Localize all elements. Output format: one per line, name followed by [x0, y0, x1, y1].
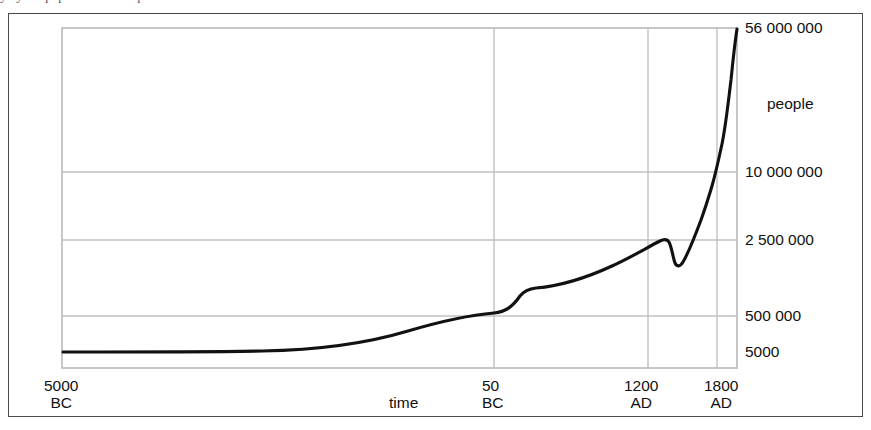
y-tick-label-2500000: 2 500 000	[745, 231, 814, 248]
x-tick-label-50bc: 50 BC	[482, 377, 504, 411]
population-over-time-chart: 56 000 000 10 000 000 2 500 000 500 000 …	[0, 0, 871, 430]
x-tick-label-1800ad: 1800 AD	[704, 377, 738, 411]
y-tick-label-500000: 500 000	[745, 307, 801, 324]
y-tick-label-5000: 5000	[745, 343, 779, 360]
x-tick-era-bc-2: BC	[482, 394, 504, 411]
x-tick-era-ad-2: AD	[704, 394, 738, 411]
x-tick-era-bc: BC	[44, 394, 78, 411]
y-tick-label-56000000: 56 000 000	[745, 19, 823, 36]
population-curve	[63, 29, 737, 352]
chart-plot-area	[0, 0, 871, 430]
vertical-gridlines	[494, 28, 717, 368]
horizontal-gridlines	[62, 172, 737, 316]
x-tick-label-1200ad: 1200 AD	[624, 377, 658, 411]
x-tick-value-50: 50	[482, 377, 499, 394]
y-tick-label-10000000: 10 000 000	[745, 163, 823, 180]
x-tick-era-ad: AD	[624, 394, 658, 411]
x-tick-label-5000bc: 5000 BC	[44, 377, 78, 411]
y-axis-title: people	[767, 95, 814, 112]
plot-border	[62, 28, 737, 368]
x-tick-value-5000: 5000	[44, 377, 78, 394]
x-axis-title: time	[389, 394, 418, 411]
x-tick-value-1800: 1800	[704, 377, 738, 394]
x-tick-value-1200: 1200	[624, 377, 658, 394]
